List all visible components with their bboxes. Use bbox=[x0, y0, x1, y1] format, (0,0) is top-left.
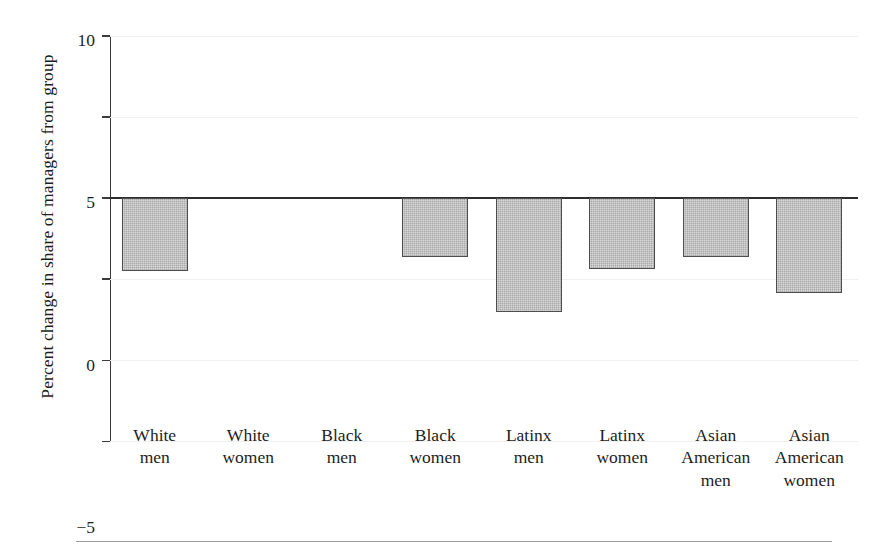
y-tick: −5 bbox=[102, 278, 110, 279]
x-label-line: Black bbox=[389, 424, 483, 446]
x-label-line: women bbox=[389, 446, 483, 468]
bar-white-men bbox=[122, 198, 188, 271]
x-label-line: men bbox=[108, 446, 202, 468]
bar-latinx-men bbox=[496, 198, 562, 311]
x-label-line: White bbox=[202, 424, 296, 446]
y-tick-label: −5 bbox=[76, 519, 95, 537]
bar-latinx-women bbox=[589, 198, 655, 269]
x-label-line: American bbox=[763, 446, 857, 468]
x-label-latinx-men: Latinxmen bbox=[482, 424, 576, 469]
x-label-white-men: Whitemen bbox=[108, 424, 202, 469]
y-tick-label: 10 bbox=[78, 33, 96, 51]
x-label-line: Latinx bbox=[482, 424, 576, 446]
y-axis-line bbox=[110, 36, 111, 442]
y-tick: −10 bbox=[102, 360, 110, 361]
x-label-line: men bbox=[482, 446, 576, 468]
x-label-black-men: Blackmen bbox=[295, 424, 389, 469]
y-tick: 0 bbox=[102, 197, 110, 198]
bar-chart-figure: Percent change in share of managers from… bbox=[0, 0, 892, 551]
x-label-line: Asian bbox=[669, 424, 763, 446]
plot-area: 1050−5−10−15 bbox=[110, 30, 858, 448]
y-axis-title: Percent change in share of managers from… bbox=[37, 12, 58, 442]
x-label-white-women: Whitewomen bbox=[202, 424, 296, 469]
gridline bbox=[110, 36, 858, 37]
x-label-black-women: Blackwomen bbox=[389, 424, 483, 469]
bar-black-women bbox=[402, 198, 468, 257]
y-tick: 5 bbox=[102, 116, 110, 117]
x-label-line: women bbox=[576, 446, 670, 468]
bar-asian-american-women bbox=[776, 198, 842, 293]
gridline bbox=[110, 279, 858, 280]
y-tick-label: 0 bbox=[86, 357, 95, 375]
footer-rule bbox=[76, 541, 832, 542]
y-tick-label: 5 bbox=[86, 195, 95, 213]
x-label-line: Black bbox=[295, 424, 389, 446]
x-label-latinx-women: Latinxwomen bbox=[576, 424, 670, 469]
x-label-line: women bbox=[202, 446, 296, 468]
x-label-line: White bbox=[108, 424, 202, 446]
x-label-line: American bbox=[669, 446, 763, 468]
x-label-asian-american-men: AsianAmericanmen bbox=[669, 424, 763, 491]
x-label-line: women bbox=[763, 469, 857, 491]
y-tick: 10 bbox=[102, 35, 110, 36]
gridline bbox=[110, 360, 858, 361]
x-label-line: men bbox=[669, 469, 763, 491]
x-label-line: Asian bbox=[763, 424, 857, 446]
bar-asian-american-men bbox=[683, 198, 749, 257]
x-label-asian-american-women: AsianAmericanwomen bbox=[763, 424, 857, 491]
x-label-line: Latinx bbox=[576, 424, 670, 446]
gridline bbox=[110, 117, 858, 118]
x-label-line: men bbox=[295, 446, 389, 468]
